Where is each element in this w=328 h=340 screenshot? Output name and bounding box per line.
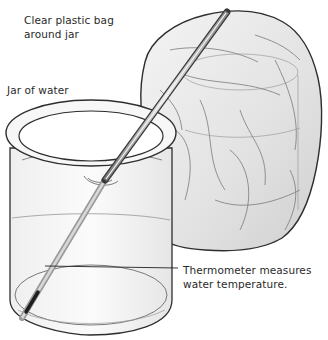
plastic-bag-label: Clear plastic bag around jar — [24, 13, 114, 41]
thermometer-label-line2: water temperature. — [183, 277, 312, 291]
thermometer-label: Thermometer measures water temperature. — [183, 263, 312, 291]
diagram-canvas: Clear plastic bag around jar Jar of wate… — [0, 0, 328, 340]
jar-label: Jar of water — [7, 83, 69, 97]
plastic-bag-label-line2: around jar — [24, 27, 114, 41]
jar-label-text: Jar of water — [7, 83, 69, 97]
thermometer-label-line1: Thermometer measures — [183, 263, 312, 277]
plastic-bag-label-line1: Clear plastic bag — [24, 13, 114, 27]
